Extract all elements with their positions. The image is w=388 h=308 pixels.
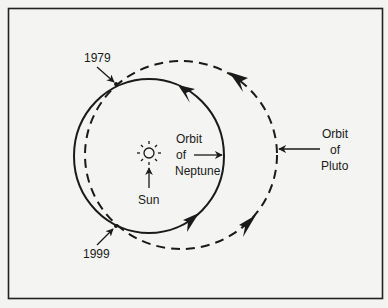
neptune-label-line1: Orbit xyxy=(176,132,203,146)
intersection-1979 xyxy=(114,82,118,86)
intersection-1999 xyxy=(114,224,118,228)
pluto-label-line2: of xyxy=(330,143,341,157)
pluto-label-line1: Orbit xyxy=(322,127,349,141)
orbit-diagram: 1979 1999 Sun Orbit of Neptune Orbit of … xyxy=(0,0,388,308)
sun-label: Sun xyxy=(138,193,159,207)
year-1999-label: 1999 xyxy=(83,247,110,261)
neptune-label-line3: Neptune xyxy=(175,164,221,178)
neptune-label-line2: of xyxy=(176,148,187,162)
diagram-frame xyxy=(9,9,383,299)
year-1979-label: 1979 xyxy=(84,51,111,65)
pluto-label-line3: Pluto xyxy=(321,159,349,173)
